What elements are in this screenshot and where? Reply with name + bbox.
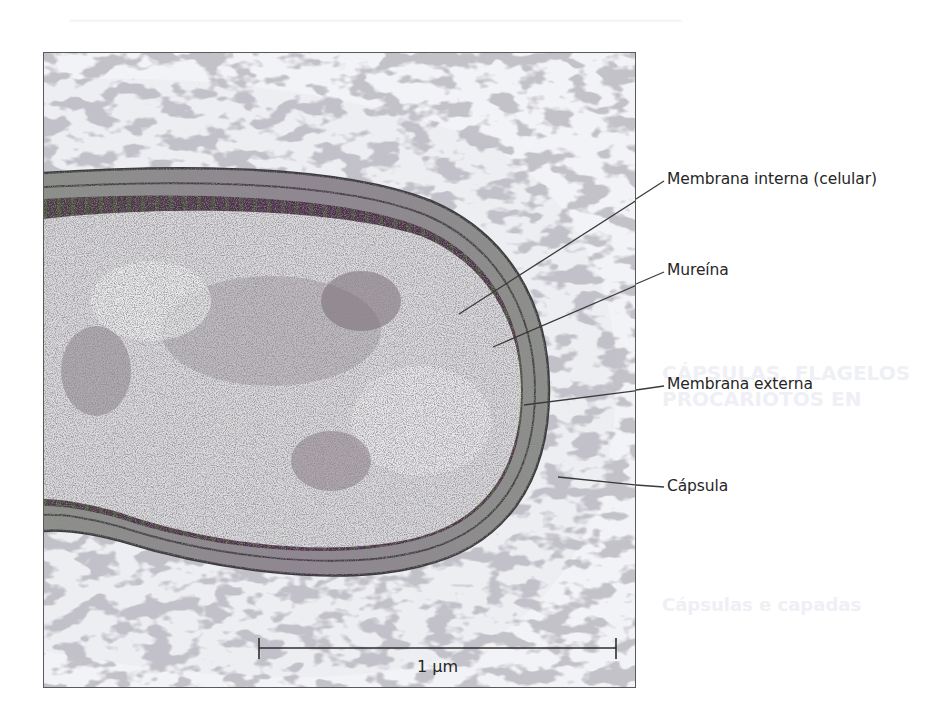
label-murein: Mureína — [667, 261, 729, 279]
bleed-line: ▁▁▁▁▁▁▁▁▁▁▁▁▁▁▁▁▁▁▁▁▁▁▁▁▁▁▁▁▁▁▁▁▁▁▁▁▁▁▁▁… — [70, 2, 681, 24]
micrograph-frame: 1 μm — [43, 52, 636, 688]
bacterium-micrograph — [44, 53, 636, 688]
label-capsule: Cápsula — [667, 477, 728, 495]
label-inner-membrane: Membrana interna (celular) — [667, 170, 877, 188]
label-outer-membrane: Membrana externa — [667, 375, 813, 393]
bleed-subheading: Cápsulas e capadas — [662, 592, 861, 618]
scale-bar-label: 1 μm — [417, 657, 458, 676]
